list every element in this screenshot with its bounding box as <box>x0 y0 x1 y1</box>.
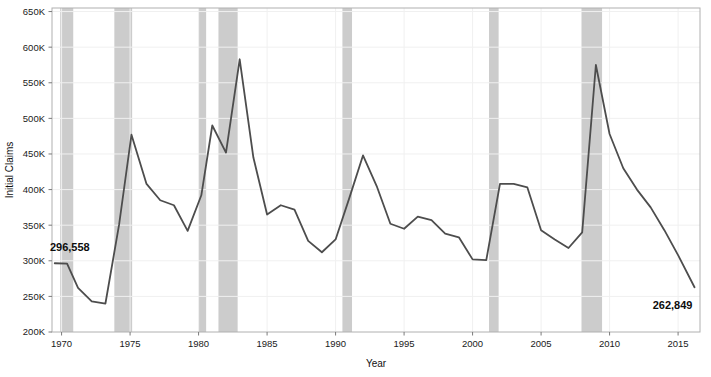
chart-page: 200K250K300K350K400K450K500K550K600K650K… <box>0 0 711 377</box>
recession-band <box>489 8 499 332</box>
recession-band <box>60 8 73 332</box>
end-value-label: 262,849 <box>653 299 693 311</box>
x-axis-tick-label: 1995 <box>394 338 415 349</box>
x-axis-tick-label: 2015 <box>668 338 689 349</box>
x-axis-tick-label: 1970 <box>51 338 72 349</box>
plot-area-background <box>52 8 700 332</box>
y-axis-tick-label: 300K <box>23 255 46 266</box>
initial-claims-line-chart: 200K250K300K350K400K450K500K550K600K650K… <box>0 0 711 377</box>
x-axis-tick-label: 2005 <box>531 338 552 349</box>
x-axis-tick-label: 2010 <box>599 338 620 349</box>
y-axis-tick-label: 200K <box>23 326 46 337</box>
y-axis-title: Initial Claims <box>4 142 15 199</box>
y-axis-tick-label: 250K <box>23 291 46 302</box>
x-axis-tick-label: 2000 <box>462 338 483 349</box>
recession-band <box>581 8 602 332</box>
y-axis-tick-label: 600K <box>23 42 46 53</box>
y-axis-tick-label: 350K <box>23 220 46 231</box>
recession-band <box>342 8 352 332</box>
x-axis-title: Year <box>366 358 387 369</box>
start-value-label: 296,558 <box>50 241 90 253</box>
y-axis-tick-label: 450K <box>23 148 46 159</box>
x-axis-tick-label: 1990 <box>325 338 346 349</box>
recession-band <box>218 8 237 332</box>
recession-band <box>114 8 132 332</box>
y-axis-tick-label: 400K <box>23 184 46 195</box>
x-axis-tick-label: 1975 <box>120 338 141 349</box>
y-axis-tick-label: 550K <box>23 77 46 88</box>
x-axis-tick-label: 1980 <box>188 338 209 349</box>
y-axis-tick-label: 500K <box>23 113 46 124</box>
x-axis-tick-label: 1985 <box>257 338 278 349</box>
y-axis-tick-label: 650K <box>23 6 46 17</box>
